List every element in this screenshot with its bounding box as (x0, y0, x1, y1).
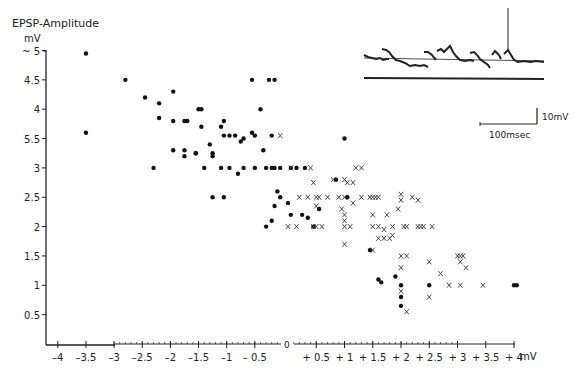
dot-point (241, 166, 245, 170)
cross-point (342, 212, 346, 217)
cross-point (385, 212, 389, 217)
cross-point (404, 253, 408, 258)
dot-point (272, 204, 276, 208)
dot-point (222, 119, 226, 123)
dot-point (199, 107, 203, 111)
cross-point (342, 218, 346, 223)
dot-point (264, 166, 268, 170)
cross-point (399, 192, 403, 197)
cross-point (399, 198, 403, 203)
dot-point (202, 166, 206, 170)
x-tick-label: –1 (221, 352, 232, 363)
cross-point (337, 195, 341, 200)
dot-point (286, 201, 290, 205)
dot-point (219, 166, 223, 170)
x-axis-unit: mV (520, 351, 537, 362)
dot-point (275, 189, 279, 193)
x-tick-label: + 2.5 (416, 352, 443, 363)
dot-point (303, 166, 307, 170)
dot-point (210, 154, 214, 158)
cross-point (410, 195, 414, 200)
dot-point (194, 151, 198, 155)
dot-point (227, 166, 231, 170)
dot-point (157, 116, 161, 120)
x-tick-label: + 2 (392, 352, 410, 363)
y-axis-title: EPSP-Amplitude (12, 17, 99, 30)
cross-point (351, 180, 355, 185)
cross-point (354, 165, 358, 170)
dot-point (185, 119, 189, 123)
cross-point (339, 206, 343, 211)
y-tick-label: 5.5 (24, 134, 40, 145)
y-axis-ticks: ~ 54.545.532.521.510.5 (22, 46, 46, 321)
cross-point (359, 195, 363, 200)
cross-point (294, 224, 298, 229)
dot-point (233, 133, 237, 137)
cross-point (404, 224, 408, 229)
cross-point (458, 259, 462, 264)
cross-point (317, 195, 321, 200)
cross-point (297, 195, 301, 200)
dot-point (182, 148, 186, 152)
x-tick-label: + 1.5 (359, 352, 386, 363)
dot-point (222, 133, 226, 137)
dot-point (267, 78, 271, 82)
dot-point (399, 283, 403, 287)
x-tick-label: – 0.5 (243, 352, 267, 363)
inset-trace (364, 8, 544, 79)
cross-point (306, 195, 310, 200)
cross-point (376, 224, 380, 229)
cross-point (325, 195, 329, 200)
x-tick-label: + 3.5 (472, 352, 499, 363)
cross-point (464, 265, 468, 270)
x-tick-label: –2.5 (132, 352, 153, 363)
cross-point (421, 224, 425, 229)
cross-point (427, 259, 431, 264)
dot-point (182, 154, 186, 158)
cross-point (458, 283, 462, 288)
cross-point (278, 133, 282, 138)
dot-point (270, 133, 274, 137)
cross-point (314, 204, 318, 209)
dot-point (342, 136, 346, 140)
dot-point (143, 95, 147, 99)
cross-point (481, 283, 485, 288)
dot-point (241, 136, 245, 140)
dot-point (236, 172, 240, 176)
x-tick-label: + 1 (336, 352, 354, 363)
x-tick-label: –4 (52, 352, 63, 363)
x-axis-minor-ticks (114, 342, 452, 344)
cross-point (382, 236, 386, 241)
cross-point (371, 212, 375, 217)
dot-point (393, 274, 397, 278)
y-tick-label: 4 (34, 104, 40, 115)
y-tick-label: 1 (34, 280, 40, 291)
cross-point (351, 201, 355, 206)
cross-point (461, 253, 465, 258)
dot-point (300, 213, 304, 217)
x-tick-label: + 0.5 (303, 352, 330, 363)
cross-point (342, 242, 346, 247)
dot-point (278, 166, 282, 170)
y-tick-label: 4.5 (24, 75, 40, 86)
cross-point (348, 224, 352, 229)
x-tick-label: –1.5 (188, 352, 209, 363)
dot-point (379, 280, 383, 284)
cross-point (320, 224, 324, 229)
dot-point (250, 78, 254, 82)
dot-point (157, 101, 161, 105)
dot-point (515, 283, 519, 287)
dot-point (253, 166, 257, 170)
x-zero-label: 0 (284, 340, 290, 350)
cross-point (399, 265, 403, 270)
dot-point (210, 195, 214, 199)
dot-point (151, 166, 155, 170)
cross-point (376, 195, 380, 200)
cross-point (390, 233, 394, 238)
cross-point (430, 224, 434, 229)
cross-point (416, 198, 420, 203)
data-points (84, 51, 519, 314)
dot-point (171, 148, 175, 152)
x-tick-label: –2 (165, 352, 176, 363)
dot-point (261, 148, 265, 152)
